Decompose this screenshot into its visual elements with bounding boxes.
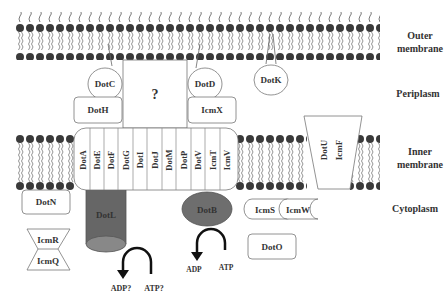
dotb-protein: DotB: [182, 192, 232, 226]
unknown-label: ?: [152, 87, 159, 102]
dotk-label: DotK: [261, 75, 282, 85]
cytoplasm-label: Cytoplasm: [392, 203, 439, 214]
arrow-down-icon: [117, 270, 129, 279]
dotn-protein: DotN: [22, 190, 70, 214]
outer-membrane-label-2: membrane: [397, 43, 444, 54]
dotf-label: DotF: [106, 151, 116, 169]
icmx-label: IcmX: [201, 105, 223, 115]
icmt-label: IcmT: [208, 150, 218, 170]
icmq-label: IcmQ: [37, 256, 59, 266]
dotj-label: DotJ: [150, 151, 160, 169]
arrow-down-icon: [191, 252, 203, 261]
dotv-label: DotV: [193, 149, 203, 169]
icmx-protein: IcmX: [188, 97, 236, 123]
dota-label: DotA: [78, 149, 88, 169]
dotb-adp-label: ADP: [186, 265, 202, 274]
unknown-channel: ?: [123, 60, 187, 128]
dotg-label: DotG: [121, 150, 131, 170]
dotu-label: DotU: [319, 139, 329, 160]
dotc-label: DotC: [95, 79, 116, 89]
dotb-atp-label: ATP: [219, 263, 234, 272]
icmw-label: IcmW: [286, 205, 310, 215]
icmr-label: IcmR: [37, 235, 59, 245]
dote-label: DotE: [92, 150, 102, 169]
region-labels: Outer membrane Periplasm Inner membrane …: [392, 30, 444, 214]
dotm-label: DotM: [164, 149, 174, 170]
dotb-atp-reaction: ADP ATP: [186, 229, 233, 274]
dotb-label: DotB: [197, 205, 217, 215]
icms-icmw-complex: IcmS IcmW: [244, 199, 318, 219]
dotl-adp-label: ADP?: [111, 284, 131, 293]
dotl-atp-label: ATP?: [144, 284, 163, 293]
icmr-icmq-complex: IcmR IcmQ: [27, 229, 70, 270]
dotd-label: DotD: [195, 79, 216, 89]
doti-label: DotI: [135, 151, 145, 168]
inner-membrane-label-2: membrane: [397, 159, 444, 170]
doth-label: DotH: [88, 105, 109, 115]
icmv-label: IcmV: [222, 149, 232, 170]
inner-membrane-complex: DotA DotE DotF DotG DotI DotJ DotM DotP …: [74, 128, 238, 190]
outer-membrane: [15, 10, 380, 62]
periplasm-label: Periplasm: [396, 88, 440, 99]
dotl-protein: DotL: [86, 190, 126, 252]
dotp-label: DotP: [179, 151, 189, 169]
dotn-label: DotN: [36, 197, 57, 207]
doto-protein: DotO: [248, 234, 296, 259]
inner-membrane-label-1: Inner: [408, 146, 432, 157]
doth-protein: DotH: [74, 97, 122, 123]
icms-label: IcmS: [255, 205, 275, 215]
dotl-label: DotL: [96, 210, 116, 220]
doto-label: DotO: [262, 242, 283, 252]
dot-icm-diagram: ? DotC DotD DotK DotH IcmX: [0, 0, 448, 304]
icmf-label: IcmF: [334, 139, 344, 160]
dotl-atp-reaction: ADP? ATP?: [111, 248, 164, 293]
outer-membrane-label-1: Outer: [407, 30, 433, 41]
